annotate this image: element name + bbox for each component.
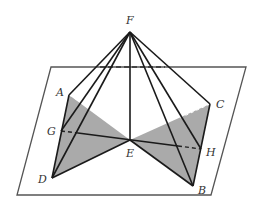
edge-FA: [69, 32, 130, 95]
label-D: D: [37, 173, 47, 186]
geometry-figure: F A C G E H D B: [0, 0, 261, 209]
label-E: E: [125, 147, 134, 160]
label-G: G: [47, 125, 56, 138]
label-F: F: [125, 14, 134, 27]
label-H: H: [205, 146, 216, 159]
label-A: A: [55, 86, 64, 99]
edge-FC: [130, 32, 210, 104]
label-B: B: [197, 184, 206, 197]
shaded-triangle-left: [52, 95, 130, 178]
label-C: C: [216, 98, 225, 111]
